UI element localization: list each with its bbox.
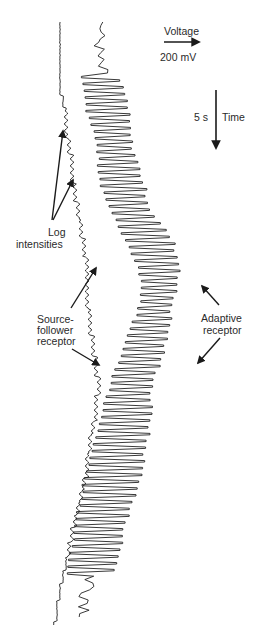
time-label: Time	[222, 111, 245, 123]
time-scale-label: 5 s	[194, 111, 208, 123]
adaptive-arrow-upper	[202, 286, 219, 305]
adaptive-arrow-lower	[198, 338, 220, 363]
log-arrow-upper	[52, 131, 63, 220]
source-follower-label-3: receptor	[37, 335, 76, 347]
voltage-label: Voltage	[164, 25, 199, 37]
adaptive-receptor-label-1: Adaptive	[201, 312, 242, 324]
source-follower-arrow-upper	[71, 268, 96, 308]
source-follower-arrow-lower	[72, 349, 99, 365]
adaptive-receptor-label-2: receptor	[203, 324, 242, 336]
voltage-scale-label: 200 mV	[160, 51, 196, 63]
log-intensities-label-2: intensities	[16, 238, 63, 250]
adaptive-receptor-trace	[67, 22, 180, 617]
log-intensities-label-1: Log	[48, 226, 66, 238]
